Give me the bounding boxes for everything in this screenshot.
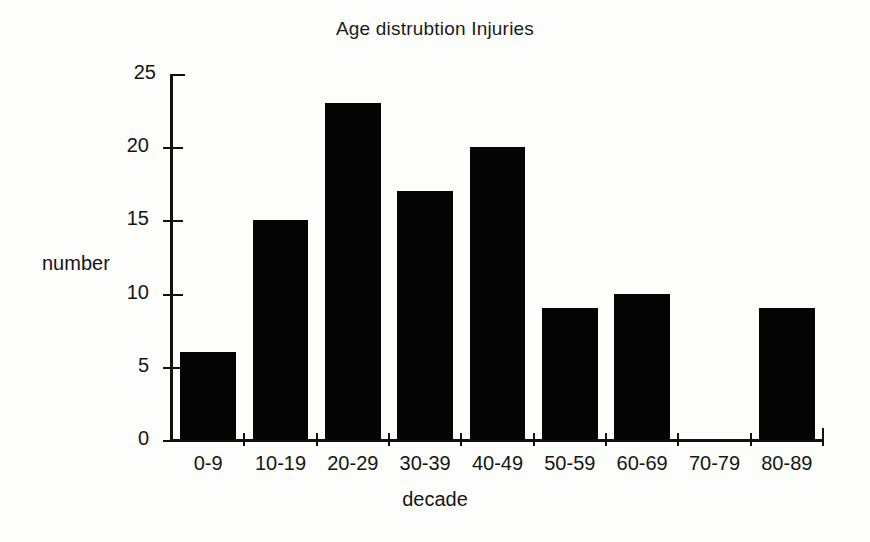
bar-50-59 (542, 308, 598, 440)
y-tick-15: 15 (163, 220, 183, 222)
x-tick-label-0-9: 0-9 (172, 452, 244, 475)
x-tick-label-40-49: 40-49 (461, 452, 533, 475)
x-tick-40-49 (533, 433, 535, 446)
y-tick-label-15: 15 (127, 207, 149, 230)
chart-title: Age distrubtion Injuries (0, 18, 870, 40)
y-tick-label-5: 5 (138, 354, 149, 377)
x-tick-label-80-89: 80-89 (751, 452, 823, 475)
bar-80-89 (759, 308, 815, 440)
plot-area: 25 20 15 10 5 0 (172, 74, 823, 440)
bar-30-39 (397, 191, 453, 440)
bar-40-49 (470, 147, 526, 440)
x-tick-10-19 (316, 433, 318, 446)
bar-10-19 (253, 220, 309, 440)
x-tick-label-10-19: 10-19 (244, 452, 316, 475)
x-tick-0-9 (243, 433, 245, 446)
y-tick-label-25: 25 (134, 61, 156, 84)
x-tick-30-39 (460, 433, 462, 446)
x-tick-60-69 (677, 433, 679, 446)
y-axis-title: number (42, 252, 110, 275)
x-tick-70-79 (750, 433, 752, 446)
y-tick-label-20: 20 (127, 134, 149, 157)
x-tick-label-60-69: 60-69 (606, 452, 678, 475)
y-tick-20: 20 (163, 147, 183, 149)
bar-60-69 (614, 294, 670, 440)
x-tick-20-29 (388, 433, 390, 446)
x-tick-label-50-59: 50-59 (534, 452, 606, 475)
y-tick-10: 10 (163, 294, 183, 296)
y-tick-label-10: 10 (127, 281, 149, 304)
x-axis-title: decade (0, 488, 870, 511)
x-tick-80-89 (822, 428, 824, 446)
bar-20-29 (325, 103, 381, 440)
chart-figure: Age distrubtion Injuries number 25 20 15… (0, 0, 870, 542)
bar-0-9 (180, 352, 236, 440)
y-tick-0: 0 (163, 440, 183, 442)
y-tick-25: 25 (170, 74, 185, 76)
x-tick-label-70-79: 70-79 (678, 452, 750, 475)
y-tick-label-0: 0 (138, 427, 149, 450)
x-tick-label-30-39: 30-39 (389, 452, 461, 475)
x-tick-label-20-29: 20-29 (317, 452, 389, 475)
x-tick-50-59 (605, 433, 607, 446)
